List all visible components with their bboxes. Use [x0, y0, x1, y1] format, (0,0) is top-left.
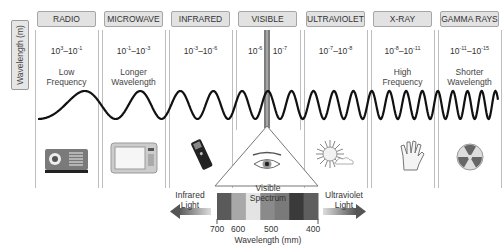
ultraviolet-light-label: UltravioletLight [322, 190, 366, 210]
radiation-icon [457, 144, 483, 170]
remote-control-icon [190, 139, 213, 171]
xray-hand-icon [401, 141, 424, 170]
spectrum-band [304, 193, 319, 220]
visible-spectrum-title: Visible Spectrum [238, 183, 298, 203]
tick-label: 400 [306, 224, 320, 234]
infrared-light-label: InfraredLight [172, 190, 208, 210]
prism-triangle [215, 126, 318, 186]
tick-label: 600 [231, 224, 245, 234]
spectrum-graphic [0, 0, 504, 248]
spectrum-axis-label: Wavelength (mm) [226, 235, 310, 245]
tick-label: 700 [210, 224, 224, 234]
sun-icon [316, 140, 353, 168]
radio-icon [45, 149, 88, 173]
microwave-oven-icon [111, 143, 157, 173]
tick-label: 500 [264, 224, 278, 234]
spectrum-band [217, 193, 232, 220]
